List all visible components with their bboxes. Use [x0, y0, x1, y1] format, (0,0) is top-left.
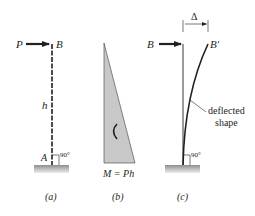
top-label: B	[56, 38, 63, 50]
panel-b: M = Ph (b)	[102, 43, 135, 203]
moment-label: M = Ph	[102, 168, 134, 179]
load-label: P	[15, 38, 23, 50]
deflected-shape-curve	[183, 44, 208, 165]
deflection-label: Δ	[191, 11, 198, 22]
moment-diagram	[104, 43, 135, 163]
deflected-top-label: B′	[210, 38, 220, 50]
base-label: A	[40, 152, 48, 163]
height-label: h	[42, 99, 48, 111]
panel-c: B B′ Δ deflected shape 90° (c)	[147, 11, 245, 203]
caption-c: (c)	[177, 191, 189, 203]
structural-figure: P B h A 90° (a) M = Ph (b) B B′ Δ deflec…	[0, 0, 255, 216]
caption-a: (a)	[45, 191, 57, 203]
caption-b: (b)	[112, 191, 124, 203]
right-angle-mark	[52, 155, 59, 165]
curve-label-line1: deflected	[208, 105, 245, 116]
top-label: B	[147, 38, 154, 50]
curve-label-line2: shape	[215, 117, 238, 128]
angle-label: 90°	[191, 151, 201, 159]
leader-line	[190, 100, 206, 112]
ground-support	[34, 165, 69, 173]
ground-support	[165, 165, 200, 173]
angle-label: 90°	[60, 151, 70, 159]
panel-a: P B h A 90° (a)	[15, 38, 70, 203]
